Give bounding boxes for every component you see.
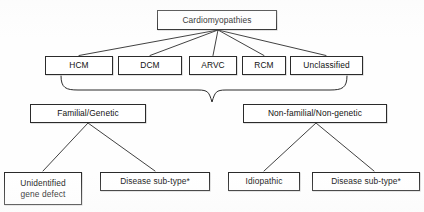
node-familial-genetic-label: Familial/Genetic (54, 108, 122, 119)
node-disease-sub-type-non-familial-label: Disease sub-type* (328, 176, 404, 187)
node-idiopathic[interactable]: Idiopathic (228, 172, 300, 191)
node-non-familial-non-genetic-label: Non-familial/Non-genetic (265, 108, 365, 119)
node-idiopathic-label: Idiopathic (243, 176, 286, 187)
node-unidentified-gene-defect[interactable]: Unidentified gene defect (4, 172, 82, 205)
edge-nonfamilial-to-idiopathic (264, 123, 316, 171)
node-unclassified[interactable]: Unclassified (290, 56, 363, 75)
node-non-familial-non-genetic[interactable]: Non-familial/Non-genetic (243, 104, 387, 123)
node-disease-sub-type-non-familial[interactable]: Disease sub-type* (312, 172, 420, 191)
node-hcm-label: HCM (66, 60, 91, 71)
node-rcm-label: RCM (251, 60, 276, 71)
edge-familial-to-subtype-left (88, 123, 155, 171)
edge-root-to-dcm (150, 30, 218, 56)
node-unclassified-label: Unclassified (300, 60, 352, 71)
node-arvc-label: ARVC (198, 60, 228, 71)
node-cardiomyopathies[interactable]: Cardiomyopathies (157, 10, 277, 30)
node-arvc[interactable]: ARVC (189, 56, 237, 75)
edge-root-to-hcm (79, 30, 218, 56)
node-disease-sub-type-familial[interactable]: Disease sub-type* (100, 172, 210, 191)
node-disease-sub-type-familial-label: Disease sub-type* (117, 176, 193, 187)
node-unidentified-gene-defect-label: Unidentified gene defect (17, 178, 68, 199)
node-cardiomyopathies-label: Cardiomyopathies (179, 15, 254, 26)
node-dcm[interactable]: DCM (118, 56, 182, 75)
edge-root-to-unclassified (218, 30, 326, 56)
edge-nonfamilial-to-subtype-right (316, 123, 374, 171)
node-familial-genetic[interactable]: Familial/Genetic (30, 104, 146, 123)
node-dcm-label: DCM (137, 60, 162, 71)
edge-root-to-rcm (218, 30, 264, 56)
node-rcm[interactable]: RCM (242, 56, 286, 75)
cardiomyopathy-classification-diagram: Cardiomyopathies HCM DCM ARVC RCM Unclas… (0, 0, 424, 212)
grouping-brace (61, 76, 347, 102)
edge-root-to-arvc (213, 30, 218, 56)
node-hcm[interactable]: HCM (45, 56, 113, 75)
edge-familial-to-unidentified (43, 123, 88, 171)
